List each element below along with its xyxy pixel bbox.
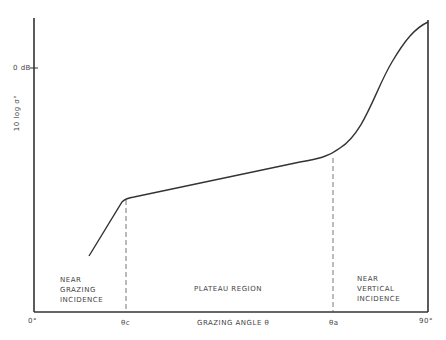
region-near-grazing: NEAR GRAZING INCIDENCE (60, 275, 103, 305)
region-plateau: PLATEAU REGION (194, 284, 262, 294)
x-axis-label: GRAZING ANGLE θ (197, 318, 269, 328)
x-tick-90: 90° (419, 316, 433, 326)
backscatter-curve (89, 22, 428, 256)
x-tick-theta-c: θc (121, 318, 130, 328)
x-tick-0: 0° (28, 316, 37, 326)
zero-db-label: 0 dB (13, 63, 31, 73)
y-axis-label: 10 log σ° (12, 88, 22, 138)
chart: 0 dB 10 log σ° NEAR GRAZING INCIDENCE PL… (0, 0, 446, 340)
region-near-vertical: NEAR VERTICAL INCIDENCE (357, 274, 400, 304)
x-tick-theta-a: θa (329, 318, 339, 328)
